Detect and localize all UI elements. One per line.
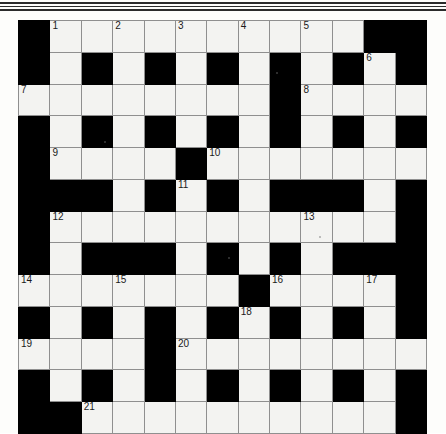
grid-open-cell[interactable] (175, 370, 206, 402)
grid-open-cell[interactable]: 14 (19, 275, 50, 307)
grid-open-cell[interactable] (301, 402, 332, 434)
grid-open-cell[interactable] (207, 275, 238, 307)
grid-open-cell[interactable] (175, 243, 206, 275)
grid-open-cell[interactable] (50, 84, 81, 116)
grid-open-cell[interactable] (301, 148, 332, 180)
grid-open-cell[interactable] (175, 211, 206, 243)
grid-open-cell[interactable] (332, 402, 363, 434)
grid-open-cell[interactable]: 2 (113, 21, 144, 53)
grid-open-cell[interactable] (332, 84, 363, 116)
grid-open-cell[interactable]: 5 (301, 21, 332, 53)
grid-open-cell[interactable] (332, 21, 363, 53)
grid-open-cell[interactable]: 12 (50, 211, 81, 243)
grid-open-cell[interactable] (113, 148, 144, 180)
grid-open-cell[interactable] (113, 179, 144, 211)
grid-open-cell[interactable]: 15 (113, 275, 144, 307)
grid-open-cell[interactable] (50, 243, 81, 275)
grid-open-cell[interactable]: 17 (364, 275, 395, 307)
grid-open-cell[interactable] (81, 338, 112, 370)
grid-open-cell[interactable] (238, 338, 269, 370)
grid-open-cell[interactable] (238, 402, 269, 434)
grid-open-cell[interactable] (144, 211, 175, 243)
grid-open-cell[interactable] (332, 275, 363, 307)
grid-open-cell[interactable] (81, 211, 112, 243)
grid-open-cell[interactable]: 18 (238, 306, 269, 338)
grid-open-cell[interactable] (50, 370, 81, 402)
grid-open-cell[interactable]: 11 (175, 179, 206, 211)
grid-open-cell[interactable] (238, 243, 269, 275)
grid-open-cell[interactable] (81, 84, 112, 116)
grid-open-cell[interactable] (144, 148, 175, 180)
grid-open-cell[interactable] (270, 338, 301, 370)
grid-open-cell[interactable] (395, 148, 426, 180)
grid-open-cell[interactable] (364, 116, 395, 148)
grid-open-cell[interactable] (50, 338, 81, 370)
grid-open-cell[interactable] (238, 148, 269, 180)
grid-open-cell[interactable] (364, 179, 395, 211)
grid-open-cell[interactable] (81, 21, 112, 53)
grid-open-cell[interactable] (113, 370, 144, 402)
grid-open-cell[interactable] (144, 21, 175, 53)
grid-open-cell[interactable] (113, 338, 144, 370)
grid-open-cell[interactable]: 1 (50, 21, 81, 53)
grid-open-cell[interactable] (50, 52, 81, 84)
grid-open-cell[interactable] (175, 275, 206, 307)
grid-open-cell[interactable] (113, 211, 144, 243)
grid-open-cell[interactable] (238, 211, 269, 243)
grid-open-cell[interactable] (270, 21, 301, 53)
grid-open-cell[interactable] (144, 275, 175, 307)
grid-open-cell[interactable] (332, 211, 363, 243)
grid-open-cell[interactable] (364, 338, 395, 370)
grid-open-cell[interactable] (301, 370, 332, 402)
grid-open-cell[interactable] (238, 116, 269, 148)
grid-open-cell[interactable]: 10 (207, 148, 238, 180)
grid-open-cell[interactable] (207, 338, 238, 370)
grid-open-cell[interactable] (301, 338, 332, 370)
grid-open-cell[interactable] (50, 275, 81, 307)
grid-open-cell[interactable]: 13 (301, 211, 332, 243)
grid-open-cell[interactable]: 20 (175, 338, 206, 370)
crossword-table[interactable]: 123456789101112131415161718192021 (18, 20, 427, 434)
grid-open-cell[interactable] (207, 211, 238, 243)
grid-open-cell[interactable] (50, 116, 81, 148)
grid-open-cell[interactable] (364, 370, 395, 402)
grid-open-cell[interactable] (364, 306, 395, 338)
grid-open-cell[interactable]: 7 (19, 84, 50, 116)
grid-open-cell[interactable]: 3 (175, 21, 206, 53)
grid-open-cell[interactable] (207, 21, 238, 53)
grid-open-cell[interactable] (175, 402, 206, 434)
grid-open-cell[interactable] (301, 306, 332, 338)
grid-open-cell[interactable] (238, 370, 269, 402)
grid-open-cell[interactable]: 6 (364, 52, 395, 84)
grid-open-cell[interactable]: 8 (301, 84, 332, 116)
grid-open-cell[interactable] (81, 275, 112, 307)
grid-open-cell[interactable] (364, 402, 395, 434)
grid-open-cell[interactable] (301, 52, 332, 84)
grid-open-cell[interactable] (395, 338, 426, 370)
grid-open-cell[interactable] (175, 84, 206, 116)
grid-open-cell[interactable] (144, 84, 175, 116)
grid-open-cell[interactable] (301, 275, 332, 307)
grid-open-cell[interactable] (113, 116, 144, 148)
grid-open-cell[interactable] (175, 52, 206, 84)
grid-open-cell[interactable] (207, 84, 238, 116)
grid-open-cell[interactable] (144, 402, 175, 434)
grid-open-cell[interactable] (270, 402, 301, 434)
grid-open-cell[interactable] (238, 179, 269, 211)
grid-open-cell[interactable]: 19 (19, 338, 50, 370)
grid-open-cell[interactable] (395, 84, 426, 116)
grid-open-cell[interactable] (270, 148, 301, 180)
grid-open-cell[interactable] (364, 148, 395, 180)
grid-open-cell[interactable]: 9 (50, 148, 81, 180)
grid-open-cell[interactable] (270, 211, 301, 243)
grid-open-cell[interactable] (238, 84, 269, 116)
grid-open-cell[interactable] (332, 148, 363, 180)
grid-open-cell[interactable] (113, 306, 144, 338)
crossword-grid[interactable]: 123456789101112131415161718192021 (18, 20, 413, 420)
grid-open-cell[interactable] (207, 402, 238, 434)
grid-open-cell[interactable]: 4 (238, 21, 269, 53)
grid-open-cell[interactable] (332, 338, 363, 370)
grid-open-cell[interactable]: 21 (81, 402, 112, 434)
grid-open-cell[interactable] (301, 116, 332, 148)
grid-open-cell[interactable] (175, 116, 206, 148)
